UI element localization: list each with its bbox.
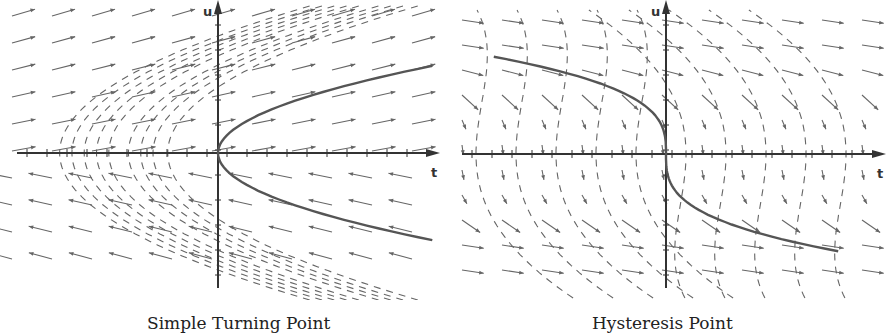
panel-simple-turning-point: tu bbox=[0, 0, 447, 300]
u-axis-label: u bbox=[651, 4, 660, 19]
u-axis-arrow-icon bbox=[214, 0, 222, 14]
direction-field-plot-right: tu bbox=[447, 0, 894, 300]
u-axis-arrow-icon bbox=[662, 0, 670, 14]
t-axis-arrow-icon bbox=[426, 149, 440, 157]
panel-hysteresis-point: tu bbox=[447, 0, 894, 300]
t-axis-label: t bbox=[877, 166, 883, 181]
caption-simple-turning-point: Simple Turning Point bbox=[147, 313, 330, 333]
u-axis-label: u bbox=[203, 4, 212, 19]
axes: tu bbox=[17, 0, 440, 288]
t-axis-arrow-icon bbox=[872, 150, 886, 158]
caption-hysteresis-point: Hysteresis Point bbox=[592, 313, 733, 333]
t-axis-label: t bbox=[431, 165, 437, 180]
direction-field-plot-left: tu bbox=[0, 0, 447, 300]
